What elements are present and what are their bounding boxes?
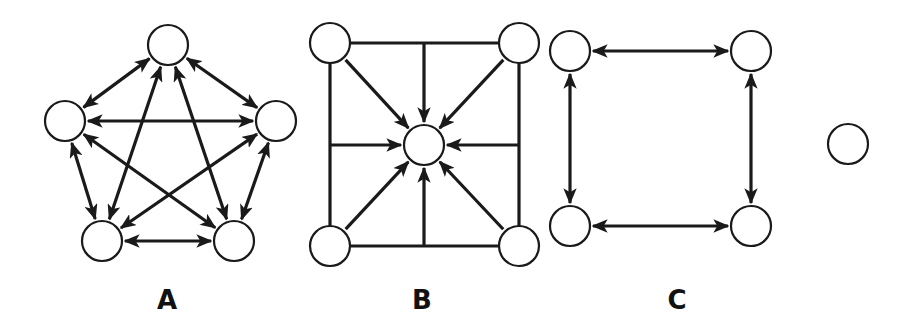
arrow <box>440 162 503 229</box>
graph-node <box>828 124 868 164</box>
bidirectional-arrow <box>242 143 269 220</box>
graph-node <box>499 226 539 266</box>
graph-node <box>310 23 350 63</box>
diagram-label-a: A <box>157 285 177 315</box>
graph-node <box>731 206 771 246</box>
arrow <box>346 162 409 229</box>
diagram-label-c: C <box>667 285 686 315</box>
graph-node <box>256 101 296 141</box>
graph-node <box>82 221 122 261</box>
bidirectional-arrow <box>84 134 215 227</box>
bidirectional-arrow <box>72 143 95 219</box>
diagram-canvas <box>0 0 904 335</box>
graph-node <box>731 31 771 71</box>
bidirectional-arrow <box>121 134 257 228</box>
bidirectional-arrow <box>175 67 226 219</box>
arrow <box>346 60 409 128</box>
diagram-label-b: B <box>412 285 432 315</box>
graph-node <box>404 125 444 165</box>
bidirectional-arrow <box>84 59 150 108</box>
graph-node <box>550 206 590 246</box>
graph-node <box>45 101 85 141</box>
bidirectional-arrow <box>187 58 257 108</box>
graph-node <box>148 25 188 65</box>
graph-node <box>550 31 590 71</box>
graph-node <box>214 221 254 261</box>
arrow <box>440 60 504 128</box>
bidirectional-arrow <box>109 67 160 219</box>
graph-node <box>499 23 539 63</box>
graph-node <box>310 226 350 266</box>
